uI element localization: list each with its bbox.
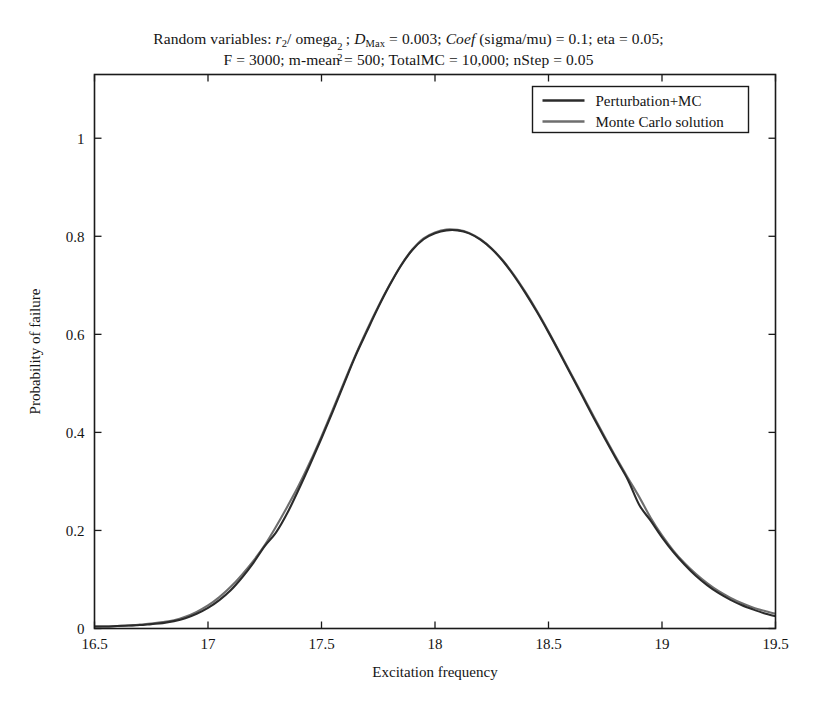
plot-svg: 16.51717.51818.51919.500.20.40.60.81Exci… — [0, 0, 817, 708]
x-tick-label: 19 — [655, 636, 670, 652]
y-axis-title: Probability of failure — [27, 288, 43, 414]
x-tick-label: 19.5 — [762, 636, 788, 652]
y-tick-label: 0.6 — [66, 327, 85, 343]
y-tick-label: 0.2 — [66, 523, 85, 539]
x-tick-label: 17 — [201, 636, 217, 652]
figure-container: Random variables: r2/ omega22; DMax = 0.… — [0, 0, 817, 708]
plot-background — [95, 75, 776, 629]
y-tick-label: 1 — [77, 131, 85, 147]
legend-label-1: Monte Carlo solution — [596, 114, 725, 130]
x-tick-label: 18 — [428, 636, 443, 652]
legend-label-0: Perturbation+MC — [596, 93, 702, 109]
legend: Perturbation+MCMonte Carlo solution — [533, 87, 749, 133]
x-tick-label: 17.5 — [308, 636, 334, 652]
x-tick-label: 18.5 — [535, 636, 561, 652]
y-tick-label: 0 — [77, 621, 85, 637]
y-tick-label: 0.8 — [66, 229, 85, 245]
y-tick-label: 0.4 — [66, 425, 85, 441]
x-axis-title: Excitation frequency — [372, 664, 498, 680]
x-tick-label: 16.5 — [81, 636, 107, 652]
